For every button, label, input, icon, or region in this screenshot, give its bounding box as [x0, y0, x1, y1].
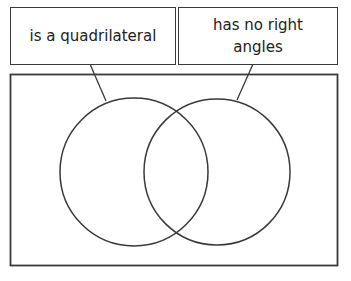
- set-circle-quadrilateral: [60, 98, 208, 246]
- connector-line-left: [90, 64, 106, 101]
- connector-line-right: [237, 64, 253, 100]
- set-circle-no-right-angles: [144, 99, 290, 245]
- set-label-left-text: is a quadrilateral: [30, 25, 157, 47]
- set-label-right: has no right angles: [178, 7, 338, 65]
- set-label-left: is a quadrilateral: [10, 7, 176, 65]
- set-label-right-line-2: angles: [213, 36, 303, 58]
- set-label-right-line-1: has no right: [213, 14, 303, 36]
